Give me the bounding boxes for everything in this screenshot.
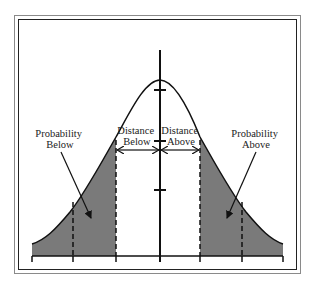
x-axis-ticks: [32, 256, 283, 262]
label-distance-above: Distance Above: [161, 125, 200, 147]
label-probability-below: Probability Below: [35, 128, 84, 150]
label-probability-above: Probability Above: [231, 128, 280, 150]
label-distance-below: Distance Below: [117, 125, 156, 147]
normal-distribution-diagram: Probability Below Distance Below Distanc…: [0, 0, 314, 287]
